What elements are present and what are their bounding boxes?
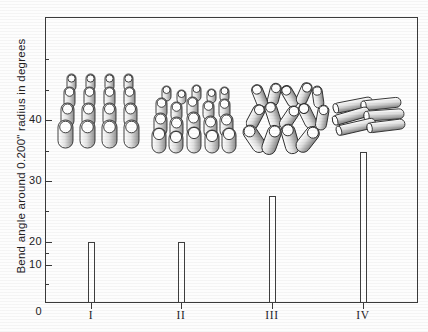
y-tick-label-20: 20 — [16, 235, 42, 247]
x-axis-label-I: I — [71, 309, 111, 321]
y-minor-tick-50 — [45, 59, 49, 60]
bar-chart-figure: Bend angle around 0.200" radius in degre… — [0, 0, 428, 332]
bar-II — [178, 242, 185, 303]
y-minor-tick-15 — [45, 253, 49, 254]
bar-I — [88, 242, 95, 303]
x-axis-label-IV: IV — [343, 309, 383, 321]
y-tick-label-30: 30 — [16, 174, 42, 186]
bar-III — [269, 196, 276, 303]
y-tick-label-0: 0 — [16, 305, 42, 317]
illustration-group-I — [56, 68, 148, 152]
y-minor-tick-35 — [45, 151, 49, 152]
y-tick-20 — [45, 242, 52, 243]
y-tick-10 — [45, 265, 52, 266]
bar-IV — [360, 152, 367, 303]
x-axis-label-III: III — [252, 309, 292, 321]
illustration-group-II — [150, 82, 242, 154]
y-tick-40 — [45, 120, 52, 121]
y-tick-label-10: 10 — [16, 258, 42, 270]
y-minor-tick-45 — [45, 90, 49, 91]
y-minor-tick-5 — [45, 284, 49, 285]
illustration-group-III — [240, 80, 336, 156]
y-minor-tick-25 — [45, 211, 49, 212]
x-axis-label-II: II — [161, 309, 201, 321]
illustration-group-IV — [331, 96, 413, 144]
y-tick-30 — [45, 181, 52, 182]
y-tick-label-40: 40 — [16, 113, 42, 125]
